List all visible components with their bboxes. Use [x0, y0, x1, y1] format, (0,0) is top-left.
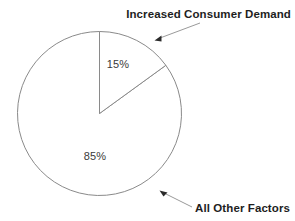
callout-leader-line-top [160, 23, 200, 38]
callout-label-all-other-factors: All Other Factors [195, 202, 290, 214]
slice-percent-label-large: 85% [84, 150, 107, 162]
arrow-head-top-icon [155, 36, 162, 42]
arrow-head-bottom-icon [160, 191, 168, 197]
callout-leader-line-bottom [166, 194, 192, 207]
slice-percent-label-small: 15% [107, 58, 130, 70]
callout-label-increased-consumer-demand: Increased Consumer Demand [126, 8, 291, 20]
pie-chart-canvas: 15% 85% Increased Consumer Demand All Ot… [0, 0, 295, 221]
pie-chart-figure: 15% 85% Increased Consumer Demand All Ot… [0, 0, 295, 221]
